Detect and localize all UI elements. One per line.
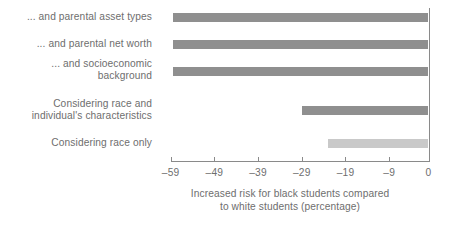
x-axis-tick-label-4: –19 — [325, 167, 365, 178]
plot-area — [0, 0, 451, 160]
x-axis-tick-label-1: –49 — [194, 167, 234, 178]
x-axis-tick-label-5: –9 — [369, 167, 409, 178]
bar-4 — [328, 139, 429, 148]
x-axis-tick-label-2: –39 — [238, 167, 278, 178]
bar-1 — [173, 40, 429, 49]
x-axis-tick-label-3: –29 — [282, 167, 322, 178]
x-axis-tick-label-0: –59 — [151, 167, 191, 178]
x-axis-caption: Increased risk for black students compar… — [140, 188, 440, 213]
bar-0 — [173, 13, 429, 22]
bar-chart: ... and parental asset types ... and par… — [0, 0, 451, 226]
x-axis-tick-label-6: 0 — [409, 167, 449, 178]
bar-2 — [173, 67, 429, 76]
bar-3 — [302, 106, 429, 115]
x-axis-line — [171, 161, 430, 162]
